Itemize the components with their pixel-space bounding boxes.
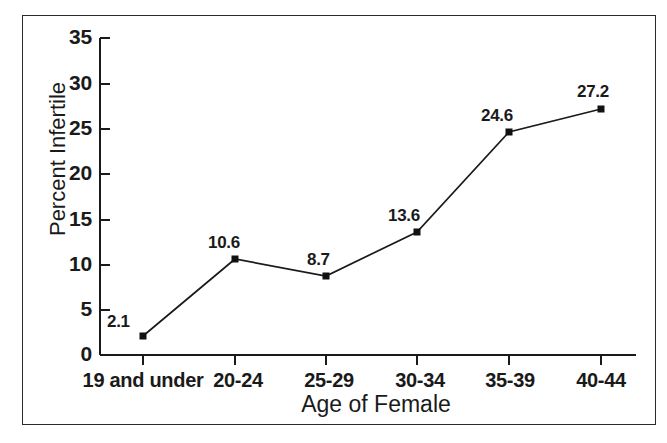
data-point-label-2-1: 2.1 bbox=[107, 312, 130, 332]
data-point-label-24-6: 24.6 bbox=[481, 106, 513, 126]
x-axis-ticks bbox=[143, 355, 601, 365]
figure-container: 0 5 10 15 20 25 30 35 19 and under 20-24… bbox=[0, 0, 667, 443]
data-point-markers bbox=[140, 106, 605, 340]
x-tick-label-40-44: 40-44 bbox=[576, 369, 626, 392]
data-series-line bbox=[143, 109, 601, 336]
y-tick-label-5: 5 bbox=[46, 297, 92, 321]
y-tick-label-35: 35 bbox=[46, 25, 92, 49]
data-point-marker bbox=[232, 256, 239, 263]
data-point-marker bbox=[598, 106, 605, 113]
data-point-label-10-6: 10.6 bbox=[208, 233, 240, 253]
data-point-label-8-7: 8.7 bbox=[307, 250, 330, 270]
x-tick-label-25-29: 25-29 bbox=[304, 369, 354, 392]
x-tick-label-20-24: 20-24 bbox=[213, 369, 263, 392]
y-axis-ticks bbox=[100, 38, 110, 355]
data-point-marker bbox=[140, 333, 147, 340]
x-tick-label-19-and-under: 19 and under bbox=[83, 369, 204, 392]
y-axis-title: Percent Infertile bbox=[45, 49, 71, 269]
x-axis-title: Age of Female bbox=[100, 391, 652, 418]
y-tick-label-0: 0 bbox=[46, 342, 92, 366]
data-point-marker bbox=[323, 273, 330, 280]
data-point-label-13-6: 13.6 bbox=[388, 206, 420, 226]
data-point-marker bbox=[506, 129, 513, 136]
data-point-label-27-2: 27.2 bbox=[577, 82, 609, 102]
data-point-marker bbox=[414, 229, 421, 236]
x-tick-label-30-34: 30-34 bbox=[395, 369, 445, 392]
x-tick-label-35-39: 35-39 bbox=[485, 369, 535, 392]
